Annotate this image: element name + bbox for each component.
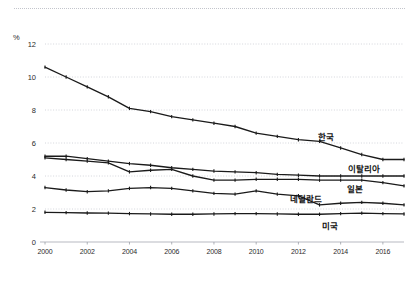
line-chart-plot: [0, 0, 419, 284]
series-line-4: [45, 212, 404, 214]
series-label-usa: 미국: [322, 219, 338, 231]
series-label-italy: 이탈리아: [348, 162, 380, 174]
series-label-netherlands: 네덜란드: [290, 192, 322, 204]
chart-screenshot: % 12108642020002002200420062008201020122…: [0, 0, 419, 284]
series-line-0: [45, 67, 404, 159]
series-label-japan: 일본: [347, 182, 363, 194]
series-label-korea: 한국: [318, 130, 334, 142]
